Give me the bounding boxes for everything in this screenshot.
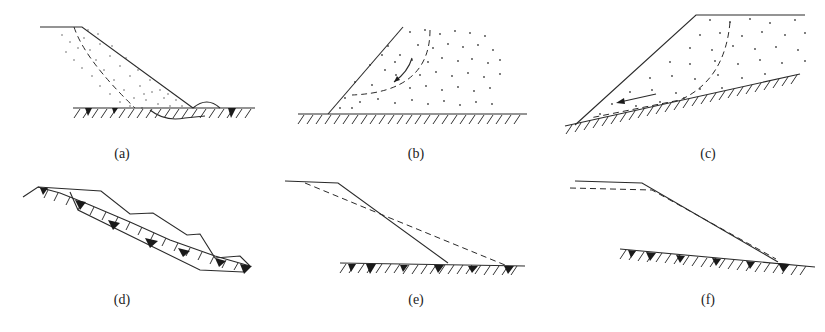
- panel-label-e: (e): [408, 292, 424, 308]
- panel-d-slope-surface: [23, 187, 250, 266]
- panel-d-bedrock-line: [38, 187, 250, 266]
- panel-f-drawing: [570, 181, 815, 275]
- panel-a-slip-surface: [74, 27, 135, 108]
- panel-a-drawing: [40, 27, 255, 119]
- panel-label-d: (d): [114, 292, 130, 308]
- panel-b-drawing: [298, 27, 527, 124]
- arrow-head-icon: [616, 98, 625, 104]
- panel-f-original-slope: [575, 181, 778, 262]
- panel-b-fill-dots: [339, 29, 501, 109]
- panel-c-fill-dots: [599, 18, 806, 115]
- panel-c-slip-surface: [590, 22, 730, 118]
- panel-c-slope-line: [575, 15, 805, 125]
- panel-c-drawing: [565, 15, 806, 134]
- panel-c-ground-line: [565, 74, 800, 126]
- panel-f-settled-slope: [570, 188, 776, 259]
- panel-d-drawing: [23, 187, 252, 274]
- panel-label-b: (b): [408, 146, 424, 162]
- panel-label-a: (a): [114, 146, 130, 162]
- panel-c-movement-arrow: [620, 94, 656, 102]
- panel-label-c: (c): [700, 146, 716, 162]
- panel-c-ground-hatch: [566, 75, 797, 134]
- panel-d-sliding-mass-base: [70, 192, 250, 272]
- panel-a-toe-bulge: [193, 102, 220, 108]
- panel-e-drawing: [285, 181, 525, 275]
- panel-d-bedrock-hatch: [44, 190, 238, 270]
- panel-e-original-slope: [285, 181, 448, 263]
- panel-a-fill-dots: [61, 29, 182, 108]
- panel-b-slip-circle: [352, 30, 430, 95]
- arrow-head-icon: [394, 76, 400, 82]
- slope-failure-diagram: [0, 0, 825, 332]
- panel-b-ground-hatch: [298, 115, 520, 124]
- panel-e-deformed-slope: [305, 183, 505, 265]
- panel-a-slope-line: [40, 27, 193, 108]
- panel-b-slope-line: [328, 27, 403, 114]
- panel-label-f: (f): [701, 292, 715, 308]
